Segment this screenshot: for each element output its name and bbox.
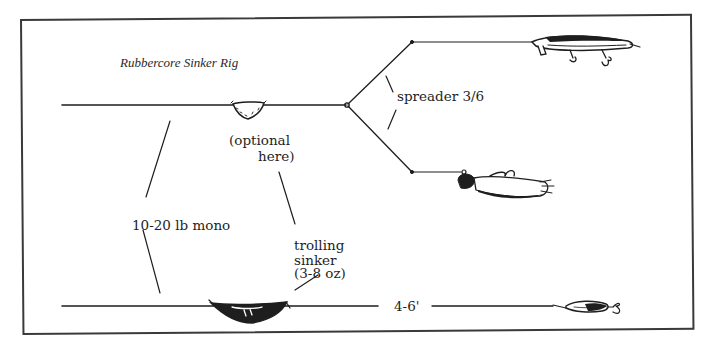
- spoon-lure-icon: [553, 301, 620, 313]
- rig-drawing: [0, 0, 713, 351]
- optional-label-line2: here): [258, 149, 294, 164]
- spreader-arm-lower: [348, 106, 412, 172]
- trolling-sinker-icon: [209, 300, 290, 323]
- trolling-label-line1: trolling: [294, 238, 344, 253]
- leader-length-label: 4-6': [394, 299, 419, 314]
- diagram-title: Rubbercore Sinker Rig: [120, 55, 238, 70]
- minnow-lure-icon: [532, 35, 640, 65]
- optional-label-line1: (optional: [229, 133, 290, 148]
- mono-pointer-lower: [143, 230, 160, 293]
- optional-pointer: [279, 172, 295, 224]
- diagram-canvas: Rubbercore Sinker Rig spreader 3/6 (opti…: [0, 0, 713, 351]
- trolling-label-line3: (3-8 oz): [294, 266, 346, 281]
- spreader-label: spreader 3/6: [397, 89, 484, 104]
- optional-sinker-icon: [231, 101, 266, 119]
- mono-label: 10-20 lb mono: [132, 218, 230, 233]
- bucktail-jig-icon: [458, 170, 554, 198]
- mono-pointer-upper: [146, 121, 170, 197]
